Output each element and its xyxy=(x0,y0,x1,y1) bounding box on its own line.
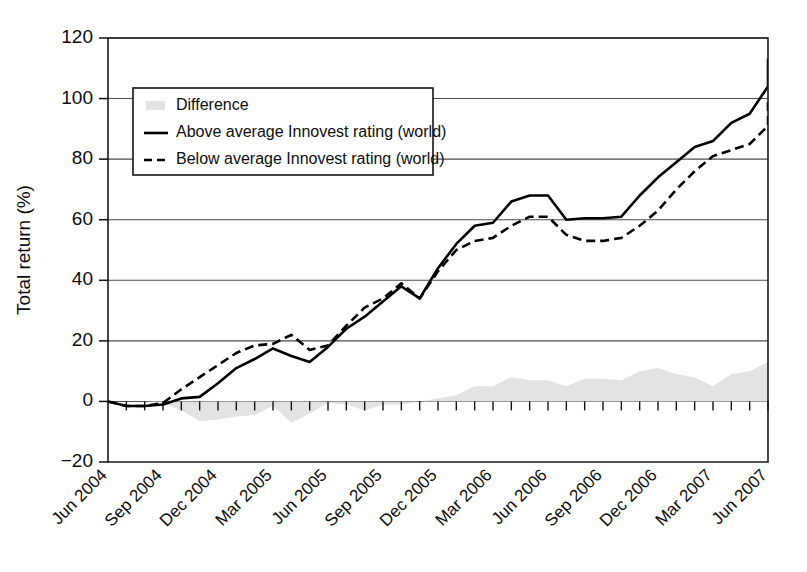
chart-legend: Difference Above average Innovest rating… xyxy=(133,88,446,175)
y-axis-tick-label: 20 xyxy=(72,329,93,350)
y-axis-tick-label: 0 xyxy=(82,389,93,410)
legend-label-difference: Difference xyxy=(176,96,249,113)
y-axis-tick-label: 40 xyxy=(72,268,93,289)
legend-label-above-average: Above average Innovest rating (world) xyxy=(176,123,446,140)
legend-swatch-difference xyxy=(146,101,165,110)
legend-label-below-average: Below average Innovest rating (world) xyxy=(176,150,445,167)
total-return-line-chart: −20020406080100120 Jun 2004Sep 2004Dec 2… xyxy=(0,0,807,572)
y-axis-tick-label: 80 xyxy=(72,147,93,168)
y-axis-tick-label: 120 xyxy=(61,26,93,47)
y-axis-tick-label: −20 xyxy=(61,450,93,471)
y-axis-tick-label: 100 xyxy=(61,87,93,108)
chart-figure: −20020406080100120 Jun 2004Sep 2004Dec 2… xyxy=(0,0,807,572)
y-axis-title: Total return (%) xyxy=(13,185,34,315)
y-axis-tick-label: 60 xyxy=(72,208,93,229)
